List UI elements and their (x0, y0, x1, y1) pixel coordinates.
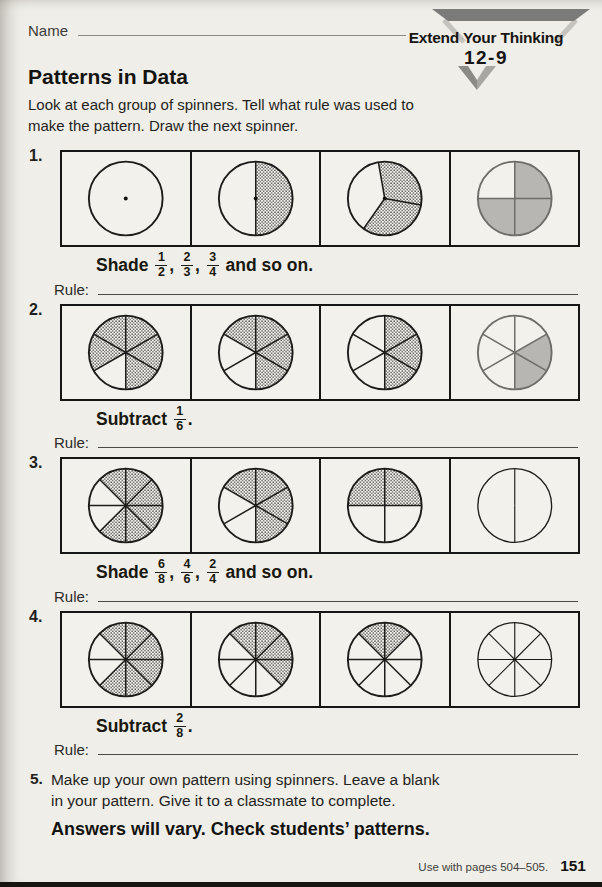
fraction: 12 (155, 251, 167, 280)
problem-5-body: Make up your own pattern using spinners.… (51, 770, 440, 840)
rule-label: Rule: (54, 281, 89, 298)
spinner-graphic (62, 616, 190, 703)
spinner-cell (319, 306, 449, 399)
caption-text: Shade (96, 255, 153, 276)
page-footer: Use with pages 504–505. 151 (418, 857, 586, 875)
spinner-cell (190, 306, 320, 399)
fraction-numerator: 6 (155, 558, 167, 573)
fraction: 68 (155, 558, 167, 587)
caption-text: , (195, 255, 205, 276)
caption-text: . (188, 409, 193, 430)
spinner-cell (449, 613, 579, 706)
rule-blank-line (98, 447, 578, 448)
fraction-denominator: 4 (208, 573, 217, 587)
spinner-cell (449, 459, 579, 552)
fraction-numerator: 3 (207, 251, 219, 266)
spinner-graphic (192, 616, 320, 703)
spinner-box (60, 150, 580, 247)
spinner-graphic (321, 462, 449, 549)
rule-blank-line (98, 754, 578, 755)
problem-row: 4.Subtract 28.Rule: (60, 611, 580, 759)
fraction-numerator: 4 (181, 558, 193, 573)
logo-banner-text: Extend Your Thinking (398, 29, 574, 47)
spinner-cell (190, 152, 320, 245)
fraction-numerator: 2 (174, 712, 186, 727)
rule-blank-line (98, 601, 578, 602)
caption-text: Shade (96, 562, 153, 583)
answer-caption: Subtract 16. (96, 405, 580, 434)
fraction-denominator: 3 (183, 266, 192, 280)
spinner-graphic (62, 462, 190, 549)
name-blank-line (78, 35, 406, 36)
spinner-graphic (321, 155, 449, 242)
spinner-graphic (321, 616, 449, 703)
problem-number: 2. (29, 301, 42, 319)
extend-your-thinking-logo: Extend Your Thinking 12-9 (398, 4, 596, 98)
page-number: 151 (560, 857, 586, 875)
fraction-numerator: 2 (207, 558, 219, 573)
caption-text: . (188, 716, 193, 737)
spinner-cell (62, 306, 190, 399)
fraction-denominator: 6 (183, 573, 192, 587)
spinner-graphic (192, 309, 320, 396)
problem-row: 2.Subtract 16.Rule: (60, 304, 580, 452)
rule-row: Rule: (54, 281, 580, 298)
spinner-graphic (192, 155, 320, 242)
fraction: 34 (207, 251, 219, 280)
fraction-denominator: 8 (175, 727, 184, 741)
page-content: Name Extend Your Thinking 12-9 Patterns … (0, 0, 602, 840)
fraction-numerator: 1 (155, 251, 167, 266)
spinner-cell (449, 152, 579, 245)
caption-text: , (169, 562, 179, 583)
spinner-cell (62, 152, 190, 245)
fraction: 16 (174, 405, 186, 434)
spinner-cell (319, 459, 449, 552)
spinner-graphic (321, 309, 449, 396)
rule-label: Rule: (54, 741, 89, 758)
spinner-cell (190, 459, 320, 552)
lesson-number: 12-9 (398, 47, 574, 69)
caption-text: and so on. (221, 562, 313, 583)
use-with-note: Use with pages 504–505. (418, 861, 548, 873)
caption-text: , (169, 255, 179, 276)
fraction-denominator: 4 (208, 266, 217, 280)
spinner-graphic (451, 462, 579, 549)
spinner-graphic (62, 155, 190, 242)
problem-5: 5. Make up your own pattern using spinne… (30, 770, 580, 840)
spinner-box (60, 304, 580, 401)
spinner-cell (449, 306, 579, 399)
spinner-graphic (62, 309, 190, 396)
worksheet-page: Name Extend Your Thinking 12-9 Patterns … (0, 0, 602, 887)
spinner-cell (319, 152, 449, 245)
problem-number: 1. (29, 147, 42, 165)
fraction-denominator: 2 (157, 266, 166, 280)
problems-list: 1.Shade 12, 23, 34 and so on.Rule:2.Subt… (28, 150, 580, 758)
answer-caption: Shade 68, 46, 24 and so on. (96, 558, 580, 587)
problem-5-answer: Answers will vary. Check students’ patte… (51, 819, 440, 840)
problem-row: 1.Shade 12, 23, 34 and so on.Rule: (60, 150, 580, 298)
rule-row: Rule: (54, 434, 580, 451)
spinner-cell (319, 613, 449, 706)
spinner-graphic (451, 155, 579, 242)
answer-caption: Shade 12, 23, 34 and so on. (96, 251, 580, 280)
problem-number: 3. (29, 454, 42, 472)
page-edge-bar (0, 882, 602, 887)
fraction-denominator: 8 (157, 573, 166, 587)
rule-row: Rule: (54, 741, 580, 758)
spinner-graphic (451, 616, 579, 703)
answer-caption: Subtract 28. (96, 712, 580, 741)
caption-text: and so on. (221, 255, 313, 276)
fraction: 23 (181, 251, 193, 280)
rule-blank-line (98, 294, 578, 295)
problem-number: 4. (29, 608, 42, 626)
spinner-box (60, 457, 580, 554)
rule-row: Rule: (54, 588, 580, 605)
fraction-numerator: 1 (174, 405, 186, 420)
spinner-box (60, 611, 580, 708)
caption-text: Subtract (96, 409, 172, 430)
rule-label: Rule: (54, 434, 89, 451)
fraction-denominator: 6 (175, 420, 184, 434)
problem-number: 5. (30, 770, 43, 840)
spinner-graphic (451, 309, 579, 396)
spinner-graphic (192, 462, 320, 549)
